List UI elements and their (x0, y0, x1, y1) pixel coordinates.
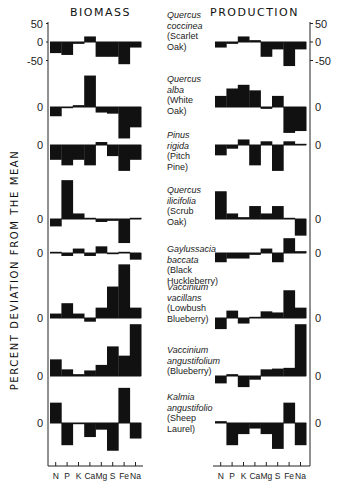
x-tick-label: Fe (119, 471, 129, 481)
bar (50, 314, 62, 318)
bar (295, 219, 307, 236)
bar (130, 324, 142, 376)
bar (96, 365, 108, 376)
zero-label: 0 (315, 139, 321, 151)
species-latin-name: Pinus (167, 130, 190, 141)
species-latin-name: ilicifolia (167, 196, 201, 207)
bar (283, 42, 295, 66)
zero-label: 0 (37, 101, 43, 113)
bar (215, 42, 227, 48)
species-latin-name: baccata (167, 255, 218, 266)
species-common-name: Oak) (167, 106, 201, 117)
bar (73, 213, 85, 219)
zero-label: 0 (37, 417, 43, 429)
bar (215, 318, 227, 329)
bar (61, 369, 73, 376)
bar (215, 96, 227, 107)
bar (249, 423, 261, 429)
bar (107, 145, 119, 156)
x-tick-label: P (229, 471, 235, 481)
bar (261, 141, 273, 145)
bar (73, 249, 85, 253)
bar (50, 145, 62, 160)
bar (238, 318, 250, 324)
species-latin-name: Gaylussacia (167, 244, 218, 255)
bar (50, 252, 62, 253)
zero-label: 0 (37, 312, 43, 324)
species-label: Quercusilicifolia(ScrubOak) (167, 185, 201, 227)
bar (249, 317, 261, 318)
bar (249, 145, 261, 165)
bar (84, 423, 96, 437)
bar (215, 421, 227, 423)
x-tick-label: Ca (249, 471, 260, 481)
species-latin-name: Quercus (167, 10, 203, 21)
bar (272, 206, 284, 219)
species-common-name: (Sheep (167, 413, 213, 424)
bar (238, 423, 250, 434)
bar (118, 219, 130, 243)
bar (130, 308, 142, 318)
bar (272, 253, 284, 262)
bar (61, 145, 73, 165)
zero-label: 0 (37, 213, 43, 225)
bar (73, 42, 85, 44)
bar (50, 42, 62, 53)
bar (226, 213, 238, 219)
bar (84, 76, 96, 107)
bar (295, 423, 307, 445)
bar (295, 251, 307, 253)
species-common-name: Blueberry) (167, 314, 209, 325)
bar (96, 246, 108, 253)
zero-label: 0 (315, 101, 321, 113)
species-latin-name: Quercus (167, 185, 201, 196)
bar (73, 374, 85, 376)
bar (107, 253, 119, 254)
bar (107, 346, 119, 376)
bar (226, 311, 238, 318)
x-tick-label: Mg (95, 471, 107, 481)
bar (226, 253, 238, 259)
species-latin-name: Kalmia (167, 392, 213, 403)
bar (226, 374, 238, 376)
bar (226, 145, 238, 149)
y-tick-label: 50 (31, 18, 43, 30)
bar (84, 36, 96, 42)
bar (215, 376, 227, 383)
zero-label: 0 (315, 417, 321, 429)
bar (272, 312, 284, 318)
x-tick-label: Na (295, 471, 306, 481)
species-common-name: (White (167, 95, 201, 106)
species-latin-name: Vaccinium (167, 345, 220, 356)
bar (226, 89, 238, 108)
species-common-name: (Black (167, 265, 218, 276)
bar (107, 219, 119, 221)
bar (118, 356, 130, 376)
bar (130, 107, 142, 127)
zero-label: 0 (315, 312, 321, 324)
bar (283, 290, 295, 318)
x-tick-label: Fe (284, 471, 294, 481)
x-tick-label: Mg (260, 471, 272, 481)
bar (73, 423, 85, 424)
bar (261, 369, 273, 376)
bar (261, 42, 273, 57)
species-label: Vacciniumangustifolium(Blueberry) (167, 345, 220, 377)
bar (130, 145, 142, 160)
bar (238, 36, 250, 42)
species-common-name: (Scarlet (167, 31, 203, 42)
zero-label: 0 (315, 247, 321, 259)
bar (50, 403, 62, 423)
bar (249, 376, 261, 380)
zero-label: 0 (315, 370, 321, 382)
bar (238, 376, 250, 387)
bar (118, 388, 130, 423)
bar (226, 423, 238, 445)
species-label: Quercusalba(WhiteOak) (167, 74, 201, 116)
y-tick-label: -50 (27, 55, 43, 67)
bar (107, 107, 119, 114)
bar (50, 107, 62, 116)
bar (249, 40, 261, 42)
species-common-name: (Lowbush (167, 303, 209, 314)
y-tick-label: -50 (315, 55, 331, 67)
